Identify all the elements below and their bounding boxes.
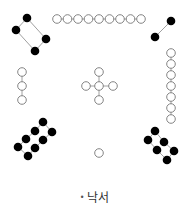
black-dot-icon: [31, 47, 40, 56]
white-dot-icon: [167, 93, 176, 102]
black-dot-icon: [151, 127, 160, 136]
white-dot-icon: [63, 15, 72, 24]
white-dot-icon: [18, 68, 27, 77]
white-dot-icon: [18, 96, 27, 105]
black-dot-icon: [153, 146, 162, 155]
black-dot-icon: [167, 17, 176, 26]
black-dot-icon: [160, 138, 169, 147]
black-dot-icon: [31, 127, 40, 136]
black-dot-icon: [163, 156, 172, 165]
black-dot-icon: [39, 118, 48, 127]
group-center-5: [82, 68, 118, 105]
caption-text: 낙서: [87, 191, 109, 205]
white-dot-icon: [95, 15, 104, 24]
white-dot-icon: [95, 149, 104, 158]
white-dot-icon: [126, 15, 135, 24]
luoshu-diagram: [0, 0, 189, 205]
white-dot-icon: [95, 68, 104, 77]
white-dot-icon: [167, 115, 176, 124]
white-dot-icon: [116, 15, 125, 24]
white-dot-icon: [167, 49, 176, 58]
group-bottom-1: [95, 149, 104, 158]
white-dot-icon: [95, 96, 104, 105]
white-dot-icon: [84, 15, 93, 24]
group-right-7: [167, 49, 176, 124]
white-dot-icon: [105, 15, 114, 24]
diagram-caption: •낙서: [0, 188, 189, 205]
white-dot-icon: [167, 82, 176, 91]
white-dot-icon: [82, 82, 91, 91]
group-left-3: [18, 68, 27, 105]
white-dot-icon: [18, 82, 27, 91]
bullet-icon: •: [80, 193, 85, 202]
dot-groups: [12, 14, 179, 165]
black-dot-icon: [144, 136, 153, 145]
black-dot-icon: [39, 136, 48, 145]
black-dot-icon: [12, 26, 21, 35]
black-dot-icon: [31, 144, 40, 153]
white-dot-icon: [53, 15, 62, 24]
white-dot-icon: [95, 82, 104, 91]
white-dot-icon: [109, 82, 118, 91]
black-dot-icon: [48, 128, 57, 137]
black-dot-icon: [22, 135, 31, 144]
black-dot-icon: [14, 143, 23, 152]
black-dot-icon: [42, 35, 51, 44]
white-dot-icon: [137, 15, 146, 24]
white-dot-icon: [167, 60, 176, 69]
black-dot-icon: [23, 14, 32, 23]
black-dot-icon: [24, 152, 33, 161]
black-dot-icon: [170, 147, 179, 156]
group-bottom-right-6: [144, 127, 179, 165]
group-bottom-left-8: [14, 118, 57, 161]
white-dot-icon: [167, 71, 176, 80]
group-top-left-4: [12, 14, 51, 56]
black-dot-icon: [151, 33, 160, 42]
group-top-9: [53, 15, 146, 24]
white-dot-icon: [167, 104, 176, 113]
white-dot-icon: [74, 15, 83, 24]
